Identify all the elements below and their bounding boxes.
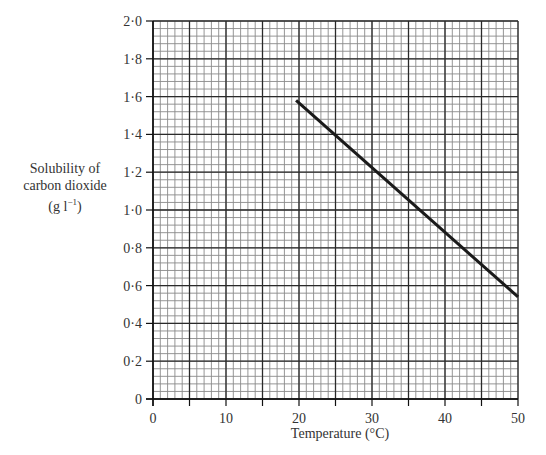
y-tick-label: 0·4: [123, 316, 142, 331]
y-unit-exponent: −1: [67, 197, 77, 207]
x-tick-label: 40: [438, 411, 452, 426]
solubility-line: [296, 100, 518, 297]
y-tick-label: 0·2: [123, 354, 142, 369]
y-axis-label-unit: (g l−1): [0, 194, 130, 215]
y-tick-label: 1·6: [123, 90, 142, 105]
x-tick-label: 50: [511, 411, 525, 426]
y-tick-label: 0·6: [123, 279, 142, 294]
y-tick-label: 1·4: [123, 127, 142, 142]
y-tick-label: 2·0: [123, 14, 142, 29]
chart-canvas: 0102030405000·20·40·60·81·01·21·41·61·82…: [0, 0, 546, 455]
grid-major: [153, 21, 518, 399]
y-axis-label-line2: carbon dioxide: [0, 177, 130, 194]
x-tick-label: 30: [365, 411, 379, 426]
y-tick-label: 1·8: [123, 52, 142, 67]
x-tick-label: 0: [150, 411, 157, 426]
x-tick-label: 10: [219, 411, 233, 426]
x-tick-label: 20: [292, 411, 306, 426]
tick-labels: 0102030405000·20·40·60·81·01·21·41·61·82…: [123, 14, 525, 426]
y-tick-label: 0: [135, 392, 142, 407]
y-unit-close: ): [77, 199, 82, 214]
y-unit-text: (g l: [48, 199, 67, 214]
axes: [146, 21, 518, 406]
x-axis-label: Temperature (°C): [250, 426, 430, 442]
y-tick-label: 0·8: [123, 241, 142, 256]
data-series: [296, 100, 518, 297]
y-axis-label-line1: Solubility of: [0, 160, 130, 177]
y-axis-label: Solubility of carbon dioxide (g l−1): [0, 160, 130, 215]
